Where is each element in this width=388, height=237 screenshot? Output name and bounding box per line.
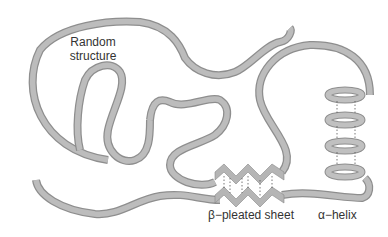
protein-structure-diagram: Random structure β−pleated sheet α−helix (0, 0, 388, 237)
beta-sheet-label: β−pleated sheet (208, 208, 294, 222)
ribbon-drawing (0, 0, 388, 237)
random-structure-label-line2: structure (68, 49, 118, 63)
alpha-helix (328, 90, 362, 177)
alpha-helix-label: α−helix (318, 208, 357, 222)
random-structure-label-line1: Random (68, 35, 118, 49)
random-structure-label: Random structure (68, 35, 118, 63)
beta-pleated-sheet (215, 164, 284, 207)
